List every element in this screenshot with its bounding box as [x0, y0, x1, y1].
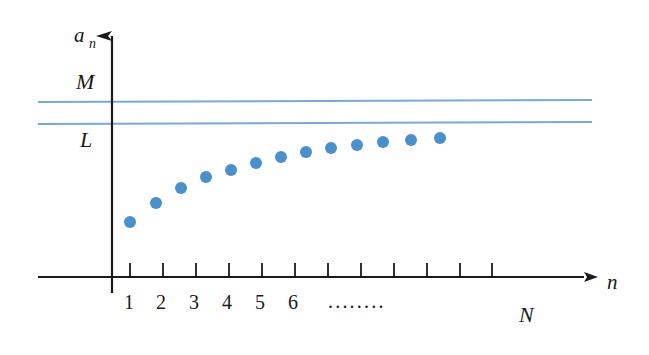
data-point: [300, 146, 312, 158]
x-tick-label-6: 6: [288, 291, 298, 313]
data-point: [175, 182, 187, 194]
data-point-series: [124, 132, 446, 228]
data-point: [351, 139, 363, 151]
x-axis-ellipsis: ........: [328, 290, 386, 312]
data-point: [434, 132, 446, 144]
data-point: [200, 171, 212, 183]
data-point: [225, 164, 237, 176]
data-point: [405, 134, 417, 146]
data-point: [325, 142, 337, 154]
reference-line-m: [38, 100, 592, 102]
reference-line-l: [38, 122, 592, 124]
figure-container: a n M L n 1 2 3 4 5 6 ........ N: [0, 0, 649, 355]
sequence-convergence-diagram: a n M L n 1 2 3 4 5 6 ........ N: [0, 0, 649, 355]
x-tick-label-3: 3: [189, 291, 199, 313]
x-tick-label-1: 1: [124, 291, 134, 313]
x-tick-label-2: 2: [156, 291, 166, 313]
reference-label-l: L: [79, 127, 92, 152]
data-point: [150, 197, 162, 209]
threshold-label-n: N: [518, 302, 535, 327]
data-point: [250, 157, 262, 169]
y-axis-label-subscript: n: [89, 36, 96, 51]
data-point: [377, 136, 389, 148]
y-axis-label: a: [74, 23, 85, 47]
data-point: [124, 216, 136, 228]
reference-label-m: M: [75, 69, 96, 94]
x-tick-label-5: 5: [255, 291, 265, 313]
x-axis-label: n: [607, 270, 618, 294]
x-tick-label-4: 4: [222, 291, 232, 313]
x-axis-ticks: [130, 263, 492, 277]
data-point: [275, 151, 287, 163]
